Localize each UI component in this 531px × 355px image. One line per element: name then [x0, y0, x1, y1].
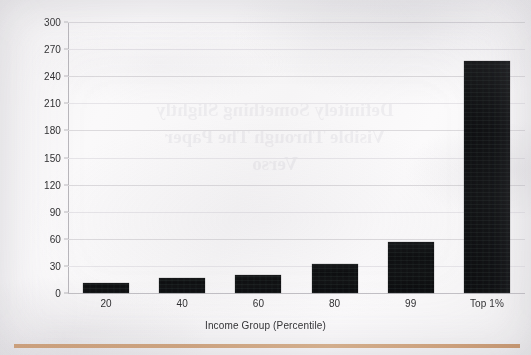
- bar-chart: % Increase in After-Tax Income 030609012…: [0, 0, 531, 355]
- y-tick-mark: [64, 130, 68, 131]
- y-tick-label: 240: [27, 71, 61, 82]
- gridline: [68, 103, 525, 104]
- y-tick-label: 210: [27, 98, 61, 109]
- gridline: [68, 185, 525, 186]
- x-axis-title: Income Group (Percentile): [0, 320, 531, 331]
- gridline: [68, 158, 525, 159]
- bar: [464, 61, 510, 293]
- x-tick-label: 60: [218, 298, 298, 309]
- gridline: [68, 49, 525, 50]
- scanned-page: Definitely Something Slightly Visible Th…: [0, 0, 531, 355]
- gridline: [68, 212, 525, 213]
- y-tick-label: 270: [27, 44, 61, 55]
- gridline: [68, 76, 525, 77]
- y-tick-mark: [64, 265, 68, 266]
- gridline: [68, 22, 525, 23]
- y-tick-mark: [64, 103, 68, 104]
- x-tick-label: Top 1%: [447, 298, 527, 309]
- x-tick-label: 80: [295, 298, 375, 309]
- x-axis-line: [68, 293, 525, 294]
- x-tick-label: 99: [371, 298, 451, 309]
- y-tick-label: 120: [27, 179, 61, 190]
- bar: [235, 275, 281, 293]
- x-tick-label: 40: [142, 298, 222, 309]
- bottom-rule: [14, 344, 520, 348]
- y-tick-mark: [64, 184, 68, 185]
- y-tick-label: 300: [27, 17, 61, 28]
- y-tick-label: 180: [27, 125, 61, 136]
- bar: [83, 283, 129, 293]
- plot-area: [68, 22, 525, 293]
- y-tick-mark: [64, 211, 68, 212]
- y-tick-mark: [64, 238, 68, 239]
- y-tick-mark: [64, 76, 68, 77]
- gridline: [68, 239, 525, 240]
- bar: [159, 278, 205, 293]
- x-tick-label: 20: [66, 298, 146, 309]
- y-tick-label: 90: [27, 206, 61, 217]
- bar: [312, 264, 358, 293]
- y-tick-label: 30: [27, 260, 61, 271]
- y-tick-label: 150: [27, 152, 61, 163]
- y-tick-mark: [64, 49, 68, 50]
- y-tick-mark: [64, 157, 68, 158]
- bar: [388, 242, 434, 293]
- y-tick-mark: [64, 293, 68, 294]
- gridline: [68, 130, 525, 131]
- y-tick-label: 0: [27, 288, 61, 299]
- y-tick-label: 60: [27, 233, 61, 244]
- gridline: [68, 266, 525, 267]
- y-tick-mark: [64, 22, 68, 23]
